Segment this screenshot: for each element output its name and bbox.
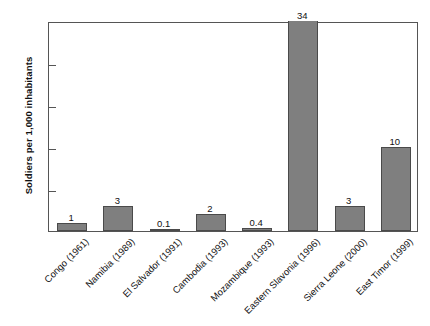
bar [242, 228, 272, 231]
y-axis-title: Soldiers per 1,000 inhabitants [23, 16, 34, 236]
bar-value-label: 3 [346, 195, 351, 206]
bar-value-label: 3 [115, 195, 120, 206]
figure-caption [22, 319, 418, 326]
bar [381, 147, 411, 231]
bar [57, 223, 87, 231]
x-axis-category-label: Congo (1961) [0, 236, 91, 326]
bar [288, 21, 318, 231]
bar-value-label: 10 [390, 136, 401, 147]
y-axis-tick-mark [49, 149, 56, 150]
bar-value-label: 0.1 [157, 218, 170, 229]
bar-value-label: 0.4 [250, 217, 263, 228]
bar-value-label: 34 [297, 10, 308, 21]
chart-figure: Soldiers per 1,000 inhabitants 051015202… [0, 0, 430, 326]
bar [335, 206, 365, 231]
y-axis-tick-mark [49, 107, 56, 108]
bar [150, 229, 180, 231]
bar [196, 214, 226, 231]
plot-area [48, 22, 418, 232]
bar [103, 206, 133, 231]
bar-value-label: 2 [207, 203, 212, 214]
y-axis-tick-mark [49, 65, 56, 66]
y-axis-tick-mark [49, 191, 56, 192]
bar-value-label: 1 [68, 212, 73, 223]
